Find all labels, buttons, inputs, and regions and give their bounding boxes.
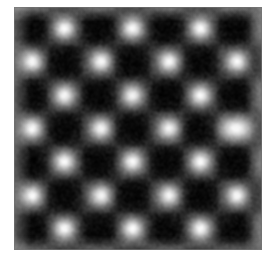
micrograph-image bbox=[14, 7, 262, 250]
micrograph-canvas bbox=[14, 7, 262, 250]
screenshot-viewport bbox=[0, 0, 276, 259]
